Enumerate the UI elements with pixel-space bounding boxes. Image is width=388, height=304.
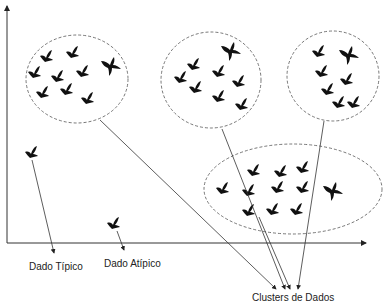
axes (7, 6, 366, 243)
bird-icon (315, 65, 328, 77)
bird-icon (323, 182, 343, 201)
bird-icon (28, 66, 41, 78)
bird-icon (40, 50, 53, 62)
bird-icon (60, 83, 73, 95)
bird-icon (332, 96, 345, 108)
cluster-4-boundary (204, 144, 382, 234)
cluster-3-arrow (298, 121, 324, 289)
bird-icon (174, 71, 187, 83)
bird-icon (339, 46, 359, 65)
bird-icon (271, 181, 284, 193)
bird-icon (266, 203, 279, 215)
bird-icon (76, 65, 89, 77)
bird-icon (216, 182, 229, 194)
cluster-4-arrow (259, 217, 290, 289)
bird-icon (247, 164, 260, 176)
typical-arrow (32, 160, 54, 253)
cluster-3-boundary (287, 31, 379, 121)
bird-icon (321, 83, 334, 95)
bird-icon (296, 161, 309, 173)
bird-icon (232, 75, 245, 87)
bird-icon (81, 92, 94, 104)
bird-icon (66, 46, 79, 58)
cluster-2-boundary (161, 32, 261, 128)
bird-icon (235, 98, 248, 110)
cluster-2-arrow (222, 129, 285, 289)
bird-icon (290, 203, 303, 215)
cluster-4-birds (216, 161, 343, 216)
bird-icon (36, 86, 49, 98)
bird-icon (340, 73, 353, 85)
bird-icon (51, 70, 64, 82)
outlier-label: Dado Atípico (104, 258, 161, 269)
bird-icon (212, 65, 225, 77)
bird-icon (242, 204, 255, 216)
bird-icon (347, 96, 360, 108)
cluster-diagram (0, 0, 388, 304)
bird-icon (312, 45, 325, 57)
bird-icon (101, 57, 121, 76)
typical-point-bird-icon (25, 146, 38, 158)
cluster-1-birds (28, 46, 121, 104)
cluster-2-birds (174, 42, 248, 110)
bird-icon (296, 181, 309, 193)
cluster-3-birds (312, 45, 360, 108)
typical-label: Dado Típico (29, 261, 83, 272)
bird-icon (221, 42, 241, 61)
outlier-point-bird-icon (107, 217, 120, 229)
bird-icon (187, 58, 200, 70)
bird-icon (274, 165, 287, 177)
bird-icon (189, 81, 202, 93)
outlier-arrow (117, 231, 124, 250)
clusters-label: Clusters de Dados (252, 292, 334, 303)
bird-icon (212, 90, 225, 102)
